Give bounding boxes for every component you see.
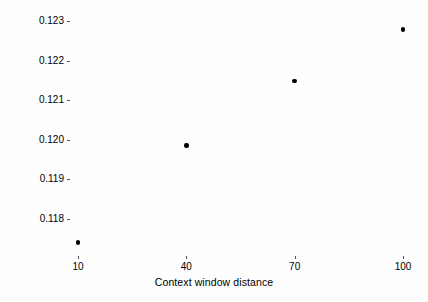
data-point (76, 240, 81, 245)
scatter-plot-figure: Mean local clustering coefficient Contex… (0, 0, 428, 302)
data-point (184, 143, 189, 148)
data-point (292, 79, 297, 84)
plot-panel (0, 0, 428, 302)
data-point (401, 27, 406, 32)
